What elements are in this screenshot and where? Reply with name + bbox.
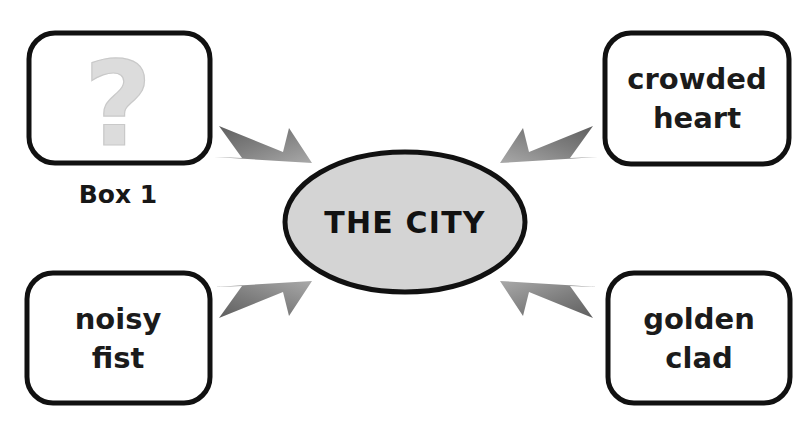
node-bottom-left[interactable]: noisy fist [27,273,210,403]
arrow-center-to-top-left [214,126,312,163]
concept-map-svg: ? Box 1 crowded heart noisy fist golden … [0,0,812,431]
node-top-left-caption: Box 1 [79,180,157,209]
node-bottom-left-box[interactable] [27,273,210,403]
node-top-right-label-line1: crowded [627,62,766,96]
node-bottom-right-label-line1: golden [643,302,755,336]
diagram-canvas: ? Box 1 crowded heart noisy fist golden … [0,0,812,431]
node-bottom-left-label-line2: fist [92,341,145,375]
node-top-left[interactable]: ? [29,33,210,173]
node-top-right[interactable]: crowded heart [605,33,789,164]
arrow-center-to-bottom-left [214,281,312,318]
center-node[interactable]: THE CITY [285,152,525,292]
node-bottom-right-label-line2: clad [665,341,732,375]
node-bottom-right-box[interactable] [608,273,790,403]
arrow-center-to-bottom-right [500,281,598,318]
node-bottom-left-label-line1: noisy [75,302,162,336]
node-top-right-label-line2: heart [653,101,741,135]
node-bottom-right[interactable]: golden clad [608,273,790,403]
question-mark-icon: ? [84,35,152,173]
arrow-center-to-top-right [500,126,598,163]
node-top-right-box[interactable] [605,33,789,164]
center-node-label: THE CITY [324,205,486,240]
